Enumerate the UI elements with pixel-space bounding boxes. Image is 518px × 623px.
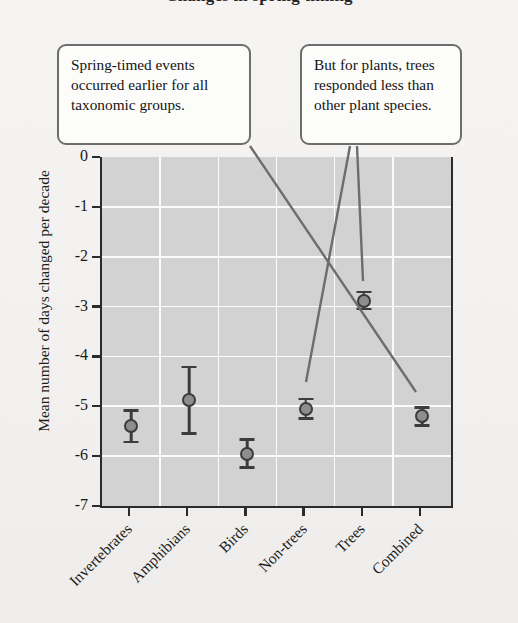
gridline-vertical [392,157,394,506]
gridline-vertical [276,157,278,506]
y-axis-tick-label: -1 [42,198,88,214]
x-axis-tick-label: Combined [368,520,426,578]
error-bar-cap-lower [124,441,139,444]
error-bar-cap-upper [240,438,255,441]
plot-inner [102,157,451,506]
error-bar-cap-upper [414,406,429,409]
data-point-marker [240,447,254,461]
x-axis-tick-label: Birds [216,520,252,556]
annotation-callout-left: Spring-timed events occurred earlier for… [57,44,251,145]
y-axis-tick-mark [92,355,100,357]
y-axis-tick-mark [92,505,100,507]
x-axis-tick-mark [244,508,246,516]
data-point-marker [124,419,138,433]
y-axis-tick-mark [92,206,100,208]
x-axis-tick-mark [419,508,421,516]
x-axis-tick-mark [186,508,188,516]
y-axis-tick-label: -5 [42,397,88,413]
annotation-callout-right: But for plants, trees responded less tha… [300,44,462,145]
chart-title: Changes in spring timing [0,0,518,6]
x-axis-tick-mark [361,508,363,516]
y-axis-tick-label: -2 [42,248,88,264]
error-bar-cap-lower [298,417,313,420]
x-axis-tick-label: Invertebrates [66,520,136,590]
y-axis-tick-label: -3 [42,298,88,314]
y-axis-tick-label: -4 [42,347,88,363]
y-axis-tick-mark [92,305,100,307]
y-axis-tick-label: -7 [42,497,88,513]
x-axis-tick-mark [302,508,304,516]
data-point-marker [415,409,429,423]
x-axis-tick-label: Non-trees [254,520,310,576]
gridline-vertical [334,157,336,506]
error-bar-cap-upper [182,366,197,369]
data-point-marker [357,294,371,308]
data-point-marker [182,393,196,407]
y-axis-tick-mark [92,405,100,407]
error-bar-cap-lower [182,432,197,435]
y-axis-tick-mark [92,256,100,258]
x-axis-tick-label: Amphibians [128,520,194,586]
error-bar-cap-upper [298,398,313,401]
error-bar-cap-lower [240,466,255,469]
y-axis-tick-label: -6 [42,447,88,463]
figure: Changes in spring timing Mean number of … [0,0,518,623]
y-axis-tick-label: 0 [42,148,88,164]
gridline-vertical [159,157,161,506]
gridline-vertical [218,157,220,506]
error-bar-cap-upper [124,409,139,412]
error-bar-cap-lower [414,424,429,427]
y-axis-tick-mark [92,455,100,457]
data-point-marker [299,402,313,416]
y-axis-tick-mark [92,156,100,158]
x-axis-tick-label: Trees [332,520,369,557]
error-bar-cap-lower [356,308,371,311]
plot-area [100,157,453,508]
x-axis-tick-mark [128,508,130,516]
